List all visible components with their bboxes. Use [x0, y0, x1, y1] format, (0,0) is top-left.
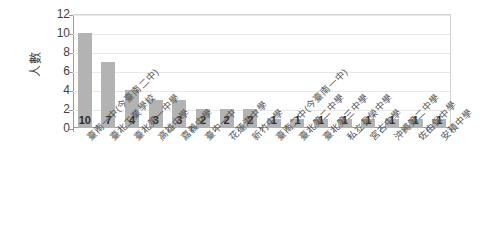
- bar-chart: 人數 121086420 10743322211111111 臺南一中(今臺南二…: [0, 0, 491, 250]
- x-axis-tick-labels: 臺南一中(今臺南二中)臺北工業學校臺北第一中學高雄中學嘉義中學臺中一中花蓮港中學…: [0, 0, 491, 250]
